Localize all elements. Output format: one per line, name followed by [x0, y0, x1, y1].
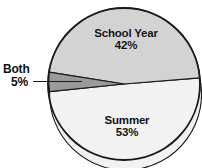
slice-label-both-value: 5% — [1, 76, 47, 89]
slice-label-summer-name: Summer — [94, 114, 160, 126]
slice-label-summer-value: 53% — [94, 126, 160, 138]
slice-label-both-name: Both — [1, 63, 47, 76]
pie-chart-figure: School Year 42% Summer 53% Both 5% — [0, 0, 202, 168]
slice-label-school-year-name: School Year — [84, 27, 168, 39]
slice-label-school-year-value: 42% — [84, 39, 168, 51]
slice-label-school-year: School Year 42% — [84, 27, 168, 52]
slice-label-summer: Summer 53% — [94, 114, 160, 139]
slice-label-both: Both 5% — [1, 63, 47, 89]
